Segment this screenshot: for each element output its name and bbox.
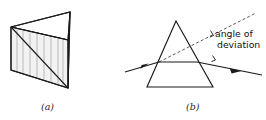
panel-a-prism-3d (11, 12, 70, 88)
emergent-ray (197, 62, 262, 75)
angle-of-deviation-label-line2: deviation (215, 40, 266, 51)
physics-figure-prism-refraction: angle of deviation (a) (b) (0, 0, 266, 120)
prism-2d-triangle (147, 21, 213, 87)
incident-ray-arrowhead (141, 64, 149, 69)
panel-b-caption: (b) (186, 102, 200, 112)
panel-a-caption: (a) (41, 102, 54, 112)
angle-of-deviation-label: angle of deviation (215, 29, 266, 51)
figure-drawing-canvas (0, 0, 266, 120)
